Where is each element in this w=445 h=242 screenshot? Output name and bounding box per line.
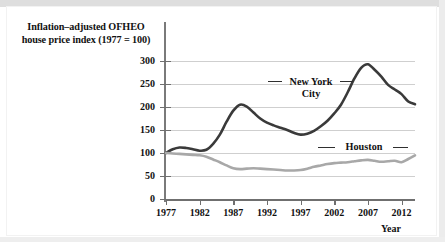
figure-container: Inflation–adjusted OFHEO house price ind… xyxy=(0,0,445,242)
leader-line-houston-right xyxy=(393,147,408,148)
series-label-new-york-city: New York City xyxy=(283,76,339,99)
leader-line-new-york-city-right xyxy=(340,81,353,82)
series-label-new-york-city-line-1: New York xyxy=(283,76,339,88)
series-plot xyxy=(0,0,445,242)
series-line-houston xyxy=(166,153,415,171)
series-label-houston: Houston xyxy=(336,141,392,153)
leader-line-houston-left xyxy=(318,147,335,148)
leader-line-new-york-city-left xyxy=(268,81,282,82)
series-label-new-york-city-line-2: City xyxy=(283,88,339,100)
